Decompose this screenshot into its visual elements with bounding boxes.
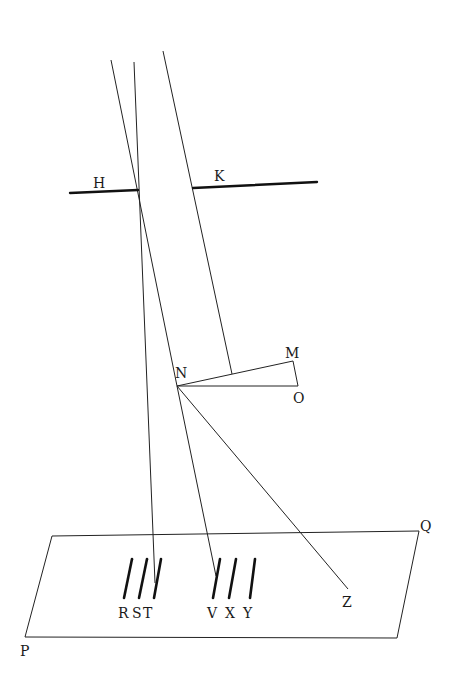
label-n: N: [175, 365, 187, 381]
optics-diagram: H K N M O R S T V X Y Z P Q: [0, 0, 457, 687]
label-q: Q: [420, 518, 431, 534]
ray-middle: [134, 62, 155, 583]
label-m: M: [285, 345, 299, 361]
ray-n-to-v: [177, 386, 216, 576]
label-p: P: [20, 643, 29, 659]
label-z: Z: [342, 594, 352, 610]
label-h: H: [93, 175, 105, 191]
label-k: K: [214, 168, 225, 184]
label-y: Y: [242, 605, 253, 621]
label-t: T: [143, 605, 153, 621]
label-r: R: [118, 605, 129, 621]
ray-left: [111, 60, 177, 386]
label-x: X: [225, 605, 235, 621]
aperture-bar-k: [193, 182, 317, 188]
screen-pq: [25, 531, 419, 638]
prism-triangle: [177, 361, 298, 386]
mark-s: [139, 559, 147, 598]
label-v: V: [206, 605, 218, 621]
mark-x: [229, 559, 236, 598]
ray-right: [163, 51, 232, 374]
label-o: O: [293, 390, 304, 406]
ray-n-to-z: [177, 386, 348, 589]
label-s: S: [132, 605, 142, 621]
mark-r: [124, 559, 132, 598]
mark-y: [250, 559, 255, 598]
